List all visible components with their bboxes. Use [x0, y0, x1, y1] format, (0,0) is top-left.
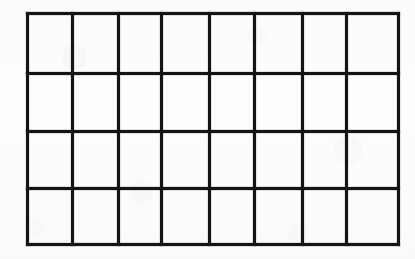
grid-cell-r1-c7[interactable]	[304, 15, 345, 72]
grid-cell-r2-c5[interactable]	[211, 75, 253, 130]
grid-line-vertical-8	[345, 12, 348, 246]
grid-cell-r1-c2[interactable]	[74, 15, 117, 72]
grid-cell-r4-c6[interactable]	[256, 190, 301, 243]
grid-cell-r3-c6[interactable]	[256, 133, 301, 187]
grid-cell-r2-c6[interactable]	[256, 75, 301, 130]
grid-cell-r4-c8[interactable]	[348, 190, 397, 243]
grid-cell-r2-c7[interactable]	[304, 75, 345, 130]
grid-line-horizontal-4	[26, 187, 400, 190]
grid-cell-r2-c2[interactable]	[74, 75, 117, 130]
grid-cell-r1-c6[interactable]	[256, 15, 301, 72]
grid-line-vertical-3	[117, 12, 120, 246]
grid-cell-r2-c4[interactable]	[163, 75, 208, 130]
grid-cell-r1-c8[interactable]	[348, 15, 397, 72]
grid-line-vertical-6	[253, 12, 256, 246]
grid-line-horizontal-5	[26, 243, 400, 246]
grid-cell-r1-c5[interactable]	[211, 15, 253, 72]
grid-line-horizontal-2	[26, 72, 400, 75]
grid-cell-r4-c5[interactable]	[211, 190, 253, 243]
grid-cell-r4-c3[interactable]	[120, 190, 160, 243]
grid-cell-r3-c2[interactable]	[74, 133, 117, 187]
grid-line-vertical-7	[301, 12, 304, 246]
grid-cell-r4-c7[interactable]	[304, 190, 345, 243]
grid-cell-r4-c4[interactable]	[163, 190, 208, 243]
grid-cell-r3-c5[interactable]	[211, 133, 253, 187]
grid-line-vertical-1	[26, 12, 29, 246]
grid-cell-r1-c1[interactable]	[29, 15, 71, 72]
grid-cell-r4-c2[interactable]	[74, 190, 117, 243]
grid-table	[0, 0, 415, 259]
grid-line-vertical-4	[160, 12, 163, 246]
grid-line-vertical-2	[71, 12, 74, 246]
scanned-page	[0, 0, 415, 259]
grid-cell-r3-c3[interactable]	[120, 133, 160, 187]
grid-line-vertical-9	[397, 12, 400, 246]
grid-cell-r1-c4[interactable]	[163, 15, 208, 72]
grid-cell-r1-c3[interactable]	[120, 15, 160, 72]
grid-line-vertical-5	[208, 12, 211, 246]
grid-line-horizontal-1	[26, 12, 400, 15]
grid-cell-r3-c8[interactable]	[348, 133, 397, 187]
grid-cell-r2-c3[interactable]	[120, 75, 160, 130]
grid-line-horizontal-3	[26, 130, 400, 133]
grid-cell-r3-c4[interactable]	[163, 133, 208, 187]
grid-cell-r2-c1[interactable]	[29, 75, 71, 130]
grid-cell-r2-c8[interactable]	[348, 75, 397, 130]
grid-cell-r3-c7[interactable]	[304, 133, 345, 187]
grid-cell-r4-c1[interactable]	[29, 190, 71, 243]
grid-cell-r3-c1[interactable]	[29, 133, 71, 187]
